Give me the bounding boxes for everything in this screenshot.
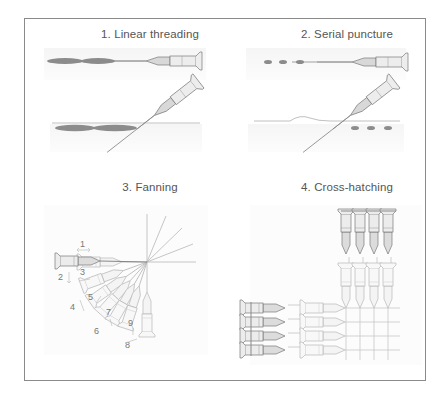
cross-hatching-illustration (240, 205, 422, 365)
skin-line (254, 117, 400, 121)
fanning-illustration: 1 2 3 4 5 6 7 8 9 (44, 205, 208, 355)
fan-step-5: 5 (88, 292, 93, 302)
deposit-icon (384, 126, 392, 130)
deposit-icon (279, 60, 287, 64)
deposit-icon (47, 58, 83, 64)
diagram-artwork: 1 2 3 4 5 6 7 8 9 (0, 0, 446, 399)
fan-step-9: 9 (128, 318, 133, 328)
fan-step-3: 3 (80, 267, 85, 277)
deposit-icon (264, 60, 272, 64)
fan-step-1: 1 (80, 239, 85, 249)
deposit-icon (93, 125, 137, 131)
fan-step-2: 2 (58, 272, 63, 282)
fan-step-7: 7 (106, 307, 111, 317)
fan-step-4: 4 (70, 302, 75, 312)
deposit-icon (55, 125, 95, 131)
deposit-icon (351, 126, 359, 130)
deposit-icon (367, 126, 375, 130)
serial-puncture-illustration (246, 48, 408, 159)
linear-threading-illustration (44, 48, 206, 159)
fan-step-6: 6 (94, 326, 99, 336)
